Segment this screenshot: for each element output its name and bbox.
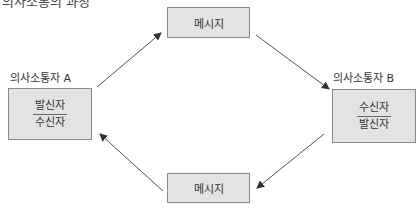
top-message-box: 메시지 — [167, 7, 250, 38]
arrow-b-to-bottom-message — [257, 134, 324, 188]
arrow-bottom-message-to-a — [100, 134, 163, 191]
communicator-b-box: 수신자 발신자 — [332, 89, 416, 143]
communicator-a-role-receiver: 수신자 — [33, 115, 67, 131]
bottom-message-box: 메시지 — [167, 173, 250, 203]
communicator-a-box: 발신자 수신자 — [8, 88, 92, 140]
communicator-b-role-sender: 발신자 — [357, 117, 391, 133]
top-message-label: 메시지 — [194, 15, 224, 31]
communicator-b-role-receiver: 수신자 — [357, 100, 391, 117]
bottom-message-label: 메시지 — [194, 180, 224, 196]
communicator-a-label: 의사소통자 A — [10, 69, 71, 85]
communicator-b-label: 의사소통자 B — [333, 69, 394, 85]
communicator-a-role-sender: 발신자 — [33, 98, 67, 115]
arrow-top-message-to-b — [256, 35, 329, 89]
arrow-a-to-top-message — [97, 33, 161, 87]
